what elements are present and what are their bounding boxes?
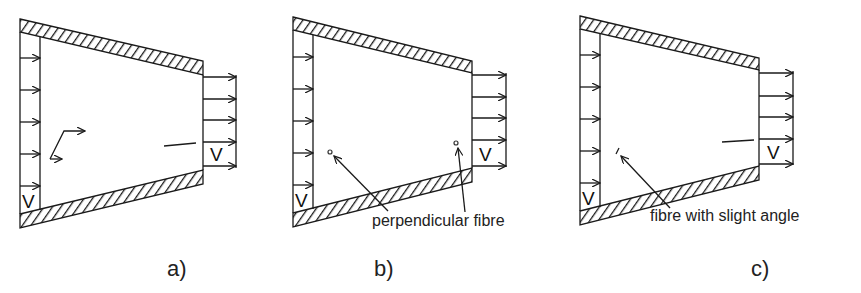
annotation-angled-fibre: fibre with slight angle xyxy=(650,207,800,224)
bottom-wall xyxy=(20,170,203,228)
outlet-velocity-label: V xyxy=(210,144,223,165)
panel-c: V V fibre with slight angle c) xyxy=(580,16,800,281)
fibre-dot-right xyxy=(454,141,458,145)
aligned-fibre xyxy=(722,140,754,142)
inlet-velocity-arrows xyxy=(580,55,600,183)
top-wall xyxy=(580,16,759,70)
aligned-fibre xyxy=(164,143,196,146)
outlet-velocity-label: V xyxy=(767,142,780,163)
panel-a: V V a) xyxy=(20,19,236,281)
panel-b: V V perpendicular fibre b) xyxy=(293,17,506,281)
inlet-velocity-arrows xyxy=(20,58,40,186)
annotation-perpendicular-fibre: perpendicular fibre xyxy=(372,212,505,229)
inlet-velocity-arrows xyxy=(293,57,313,185)
panel-label-b: b) xyxy=(374,256,394,281)
fibre-dot-left xyxy=(328,150,332,154)
angled-fibre xyxy=(616,148,619,154)
inlet-velocity-label: V xyxy=(295,190,308,211)
contraction-flow-figure: V V a) V xyxy=(0,0,861,293)
inlet-velocity-label: V xyxy=(582,188,595,209)
panel-label-c: c) xyxy=(751,256,769,281)
panel-label-a: a) xyxy=(167,256,187,281)
top-wall xyxy=(20,19,203,75)
inlet-velocity-label: V xyxy=(22,191,35,212)
outlet-velocity-label: V xyxy=(479,144,492,165)
fibre-rotation-path xyxy=(50,131,85,159)
top-wall xyxy=(293,17,472,73)
